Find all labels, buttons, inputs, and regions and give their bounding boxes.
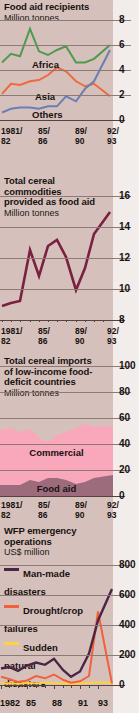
chart4-gridline-800 <box>0 565 131 566</box>
chart1-ytick-2: 2 <box>119 90 125 100</box>
infographic-page: Food aid recipients Million tonnes <box>0 0 139 713</box>
chart1-ytick-4: 4 <box>119 65 125 75</box>
chart4-xtick-4: 93 <box>98 699 108 709</box>
chart2-ytick-14: 14 <box>119 222 130 232</box>
chart4-xtick-3: 91 <box>78 699 88 709</box>
chart2-gridline-10 <box>0 289 131 290</box>
chart1-xtick-3: 92/ 93 <box>107 127 119 146</box>
chart1-ytick-6: 6 <box>119 40 125 50</box>
chart3-axis <box>0 496 125 497</box>
chart3-xtick-3: 92/ 93 <box>107 501 119 520</box>
chart3-label-commercial: Commercial <box>0 448 113 458</box>
chart2-ytick-10: 10 <box>119 284 130 294</box>
chart2-tickmarks <box>2 321 104 322</box>
chart3-ytick-40: 40 <box>119 439 130 449</box>
chart4-gridline-200 <box>0 655 131 656</box>
chart1-gridline-8 <box>0 20 131 21</box>
chart4-gridline-400 <box>0 625 131 626</box>
chart1-gridline-4 <box>0 70 131 71</box>
chart2-xtick-2: 89/ 90 <box>75 327 87 346</box>
chart3-ytick-80: 80 <box>119 387 130 397</box>
chart4-ytick-800: 800 <box>119 560 136 570</box>
chart1-label-others: Others <box>32 110 63 120</box>
chart1-label-africa: Africa <box>32 60 59 70</box>
chart2-xtick-3: 92/ 93 <box>107 327 119 346</box>
chart2-xtick-1: 85/ 86 <box>38 327 50 346</box>
chart4-plot <box>0 565 113 696</box>
chart3-area-svg <box>0 366 113 497</box>
chart1-xtick-1: 85/ 86 <box>38 127 50 146</box>
chart2-series-svg <box>0 196 113 322</box>
chart3-xlabels: 1981/ 82 85/ 86 89/ 90 92/ 93 <box>0 501 113 523</box>
chart3-gridline-40 <box>0 444 131 445</box>
chart3-plot: Commercial Food aid <box>0 366 113 496</box>
chart2-gridline-16 <box>0 196 131 197</box>
chart4-title: WFP emergency operations <box>0 526 139 547</box>
chart2-xtick-0: 1981/ 82 <box>1 327 22 346</box>
chart4-xlabels: 1982 85 88 91 93 <box>0 699 113 713</box>
chart3-ytick-0: 0 <box>119 491 125 501</box>
chart3-xtick-2: 89/ 90 <box>75 501 87 520</box>
chart3-gridline-20 <box>0 470 131 471</box>
chart4-xtick-2: 88 <box>52 699 62 709</box>
chart2-ytick-16: 16 <box>119 191 130 201</box>
chart3-xtick-1: 85/ 86 <box>38 501 50 520</box>
chart1-label-asia: Asia <box>35 92 55 102</box>
chart1-gridline-2 <box>0 95 131 96</box>
chart4-xtick-1: 85 <box>26 699 36 709</box>
chart3-gridline-60 <box>0 418 131 419</box>
chart1-plot: Africa Asia Others <box>0 20 113 120</box>
chart2-ytick-12: 12 <box>119 253 130 263</box>
chart4-ytick-0: 0 <box>119 680 125 690</box>
chart2-plot <box>0 196 113 321</box>
chart2-xlabels: 1981/ 82 85/ 86 89/ 90 92/ 93 <box>0 327 113 349</box>
chart3-ytick-60: 60 <box>119 413 130 423</box>
chart2-gridline-12 <box>0 258 131 259</box>
chart4-subtitle: US$ million <box>0 547 139 558</box>
chart3-gridline-80 <box>0 392 131 393</box>
chart4-xtick-0: 1982 <box>0 699 20 709</box>
chart4-line-manmade <box>1 589 112 677</box>
chart1-xtick-0: 1981/ 82 <box>1 127 22 146</box>
chart3-label-foodaid: Food aid <box>0 484 113 494</box>
chart4-ytick-200: 200 <box>119 650 136 660</box>
chart1-axis <box>0 120 125 121</box>
chart3-xtick-0: 1981/ 82 <box>1 501 22 520</box>
chart2-axis <box>0 320 125 321</box>
chart1-gridline-6 <box>0 45 131 46</box>
chart3-ytick-20: 20 <box>119 465 130 475</box>
chart1-ytick-8: 8 <box>119 15 125 25</box>
chart2-gridline-14 <box>0 227 131 228</box>
chart1-ytick-0: 0 <box>119 115 125 125</box>
chart1-title: Food aid recipients <box>0 2 139 13</box>
chart3-gridline-100 <box>0 366 131 367</box>
chart4-gridline-600 <box>0 595 131 596</box>
chart3-ytick-100: 100 <box>119 361 136 371</box>
chart1-xtick-2: 89/ 90 <box>75 127 87 146</box>
chart4-line-drought <box>1 612 112 684</box>
chart4-ytick-600: 600 <box>119 590 136 600</box>
chart4-ytick-400: 400 <box>119 620 136 630</box>
chart4-series-svg <box>0 565 113 696</box>
panel-wfp-emergency-operations: WFP emergency operations US$ million <box>0 526 139 558</box>
chart4-gridline-0 <box>0 685 125 686</box>
chart2-ytick-8: 8 <box>119 315 125 325</box>
chart1-xlabels: 1981/ 82 85/ 86 89/ 90 92/ 93 <box>0 127 113 149</box>
